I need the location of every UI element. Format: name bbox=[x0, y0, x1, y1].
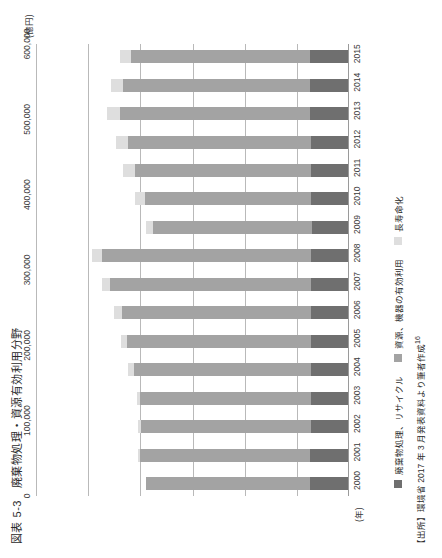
figure-number: 図表 5-3 bbox=[11, 500, 23, 544]
legend-item: 長寿命化 bbox=[392, 196, 404, 245]
plot-area bbox=[36, 44, 349, 496]
rotated-page-wrapper: 図表 5-3廃棄物処理・資源有効利用分野 0100,000200,000300,… bbox=[0, 0, 442, 558]
x-tick-label: 2014 bbox=[352, 79, 396, 92]
legend-label: 廃棄物処理、リサイクル bbox=[392, 376, 404, 475]
bar-segment bbox=[111, 79, 123, 92]
bar-2005 bbox=[121, 335, 348, 348]
x-tick-label: 2002 bbox=[352, 420, 396, 433]
axis-baseline bbox=[348, 44, 349, 496]
bar-segment bbox=[120, 107, 311, 120]
bar-segment bbox=[310, 449, 348, 462]
bar-2014 bbox=[111, 79, 348, 92]
x-tick-label: 2003 bbox=[352, 392, 396, 405]
bar-2006 bbox=[114, 306, 348, 319]
x-tick-label: 2015 bbox=[352, 50, 396, 63]
bar-2009 bbox=[146, 221, 348, 234]
legend-swatch bbox=[394, 237, 402, 245]
bar-group bbox=[36, 44, 348, 496]
figure-container: 図表 5-3廃棄物処理・資源有効利用分野 0100,000200,000300,… bbox=[0, 0, 442, 558]
bar-segment bbox=[311, 278, 348, 291]
bar-2000 bbox=[146, 477, 348, 490]
legend-swatch bbox=[394, 480, 402, 488]
bar-segment bbox=[153, 221, 312, 234]
bar-segment bbox=[311, 392, 348, 405]
bar-segment bbox=[146, 477, 311, 490]
x-tick-label: 2004 bbox=[352, 363, 396, 376]
x-axis-unit-label: (年) bbox=[352, 507, 364, 522]
y-tick-label: 300,000 bbox=[22, 255, 32, 286]
bar-segment bbox=[107, 107, 120, 120]
bar-segment bbox=[311, 363, 348, 376]
bar-segment bbox=[140, 392, 311, 405]
legend-label: 長寿命化 bbox=[392, 196, 404, 232]
bar-segment bbox=[141, 420, 311, 433]
y-tick-label: 400,000 bbox=[22, 179, 32, 210]
bar-segment bbox=[311, 335, 348, 348]
y-axis-unit-label: (億円) bbox=[22, 14, 34, 38]
x-tick-label: 2001 bbox=[352, 449, 396, 462]
legend-item: 資源、機器の有効利用 bbox=[392, 259, 404, 362]
bar-segment bbox=[116, 136, 128, 149]
bar-segment bbox=[92, 249, 102, 262]
bar-2001 bbox=[138, 449, 348, 462]
x-tick-label: 2009 bbox=[352, 221, 396, 234]
x-tick-label: 2012 bbox=[352, 136, 396, 149]
x-axis-labels: 2000200120022003200420052006200720082009… bbox=[352, 44, 396, 496]
bar-segment bbox=[311, 420, 348, 433]
chart-legend: 廃棄物処理、リサイクル資源、機器の有効利用長寿命化 bbox=[392, 196, 404, 488]
bar-2010 bbox=[135, 192, 348, 205]
x-tick-label: 2013 bbox=[352, 107, 396, 120]
y-tick-label: 0 bbox=[22, 494, 32, 499]
source-note: 【出所】環境省 2017 年 3 月発表資料より筆者作成16 bbox=[414, 336, 426, 548]
bar-segment bbox=[123, 79, 311, 92]
bar-segment bbox=[102, 249, 311, 262]
bar-segment bbox=[311, 136, 348, 149]
bar-segment bbox=[131, 50, 310, 63]
bar-segment bbox=[311, 306, 348, 319]
bar-2015 bbox=[120, 50, 348, 63]
bar-2003 bbox=[137, 392, 348, 405]
bar-segment bbox=[121, 335, 128, 348]
y-tick-label: 500,000 bbox=[22, 104, 32, 135]
bar-2007 bbox=[102, 278, 348, 291]
x-tick-label: 2006 bbox=[352, 306, 396, 319]
bar-2008 bbox=[92, 249, 348, 262]
bar-segment bbox=[114, 306, 121, 319]
x-tick-label: 2000 bbox=[352, 477, 396, 490]
bar-segment bbox=[110, 278, 311, 291]
bar-2011 bbox=[123, 164, 348, 177]
bar-2002 bbox=[138, 420, 348, 433]
bar-segment bbox=[102, 278, 110, 291]
bar-segment bbox=[311, 249, 348, 262]
source-text: 【出所】環境省 2017 年 3 月発表資料より筆者作成 bbox=[416, 344, 426, 548]
bar-segment bbox=[135, 164, 311, 177]
bar-segment bbox=[127, 335, 311, 348]
bar-segment bbox=[146, 221, 153, 234]
bar-segment bbox=[134, 363, 311, 376]
bar-segment bbox=[120, 50, 131, 63]
x-tick-label: 2008 bbox=[352, 249, 396, 262]
y-tick-label: 200,000 bbox=[22, 330, 32, 361]
bar-segment bbox=[310, 79, 348, 92]
bar-2013 bbox=[107, 107, 349, 120]
x-tick-label: 2011 bbox=[352, 164, 396, 177]
bar-segment bbox=[310, 477, 348, 490]
y-tick-label: 100,000 bbox=[22, 405, 32, 436]
bar-2012 bbox=[116, 136, 348, 149]
bar-segment bbox=[135, 192, 144, 205]
legend-item: 廃棄物処理、リサイクル bbox=[392, 376, 404, 488]
bar-segment bbox=[140, 449, 311, 462]
legend-swatch bbox=[394, 354, 402, 362]
bar-2004 bbox=[128, 363, 348, 376]
x-tick-label: 2010 bbox=[352, 192, 396, 205]
bar-segment bbox=[123, 164, 134, 177]
x-tick-label: 2005 bbox=[352, 335, 396, 348]
bar-segment bbox=[145, 192, 312, 205]
x-tick-label: 2007 bbox=[352, 278, 396, 291]
bar-segment bbox=[310, 107, 348, 120]
bar-segment bbox=[310, 50, 348, 63]
bar-segment bbox=[311, 164, 348, 177]
bar-segment bbox=[122, 306, 311, 319]
footnote-marker: 16 bbox=[414, 336, 422, 344]
bar-segment bbox=[128, 136, 311, 149]
